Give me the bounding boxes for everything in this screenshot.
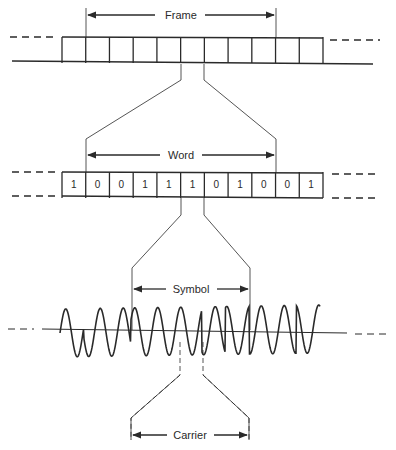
- frame-label: Frame: [162, 9, 200, 21]
- diagram-graphics: [0, 0, 396, 450]
- bit-cell: 0: [109, 179, 133, 191]
- signal-hierarchy-diagram: Frame Word Symbol Carrier 10011101001: [0, 0, 396, 450]
- carrier-label: Carrier: [170, 429, 210, 441]
- bit-cell: 1: [228, 179, 252, 191]
- modulated-carrier-waveform: [8, 305, 390, 357]
- symbol-to-carrier-connector: [131, 342, 249, 440]
- bit-cell: 0: [276, 179, 300, 191]
- bit-cell: 1: [157, 179, 181, 191]
- bit-cell: 1: [181, 179, 205, 191]
- bit-cell: 0: [204, 179, 228, 191]
- word-label: Word: [165, 149, 197, 161]
- word-to-symbol-connector: [132, 198, 250, 330]
- bit-cell: 1: [133, 179, 157, 191]
- frame-row: [10, 37, 380, 64]
- bit-cell: 1: [299, 179, 323, 191]
- bit-cell: 0: [86, 179, 110, 191]
- bit-cell: 0: [252, 179, 276, 191]
- symbol-label: Symbol: [170, 283, 213, 295]
- bit-cell: 1: [62, 179, 86, 191]
